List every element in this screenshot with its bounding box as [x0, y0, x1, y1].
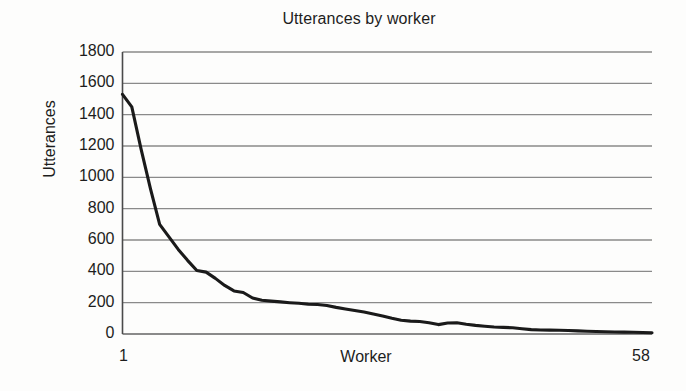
x-axis-label-text: Worker — [340, 348, 391, 366]
data-series-line — [123, 94, 653, 332]
x-axis-label: Worker — [0, 348, 686, 366]
plot-area — [0, 0, 686, 391]
chart-figure: Utterances by worker Utterances 02004006… — [0, 0, 686, 391]
gridlines — [123, 52, 653, 334]
